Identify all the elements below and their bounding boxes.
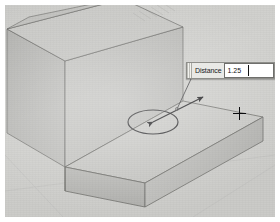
three-d-scene bbox=[5, 5, 275, 217]
distance-value-input[interactable]: 1.25 bbox=[224, 63, 251, 78]
modeling-viewport[interactable]: Distance 1.25 bbox=[5, 5, 275, 217]
distance-input-callout[interactable]: Distance 1.25 bbox=[186, 62, 275, 79]
distance-secondary-input[interactable] bbox=[251, 63, 274, 78]
distance-label: Distance bbox=[192, 63, 224, 78]
cad-screenshot: Distance 1.25 bbox=[0, 0, 280, 222]
text-caret bbox=[248, 65, 249, 76]
